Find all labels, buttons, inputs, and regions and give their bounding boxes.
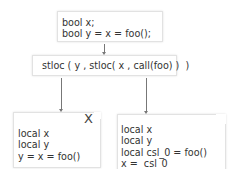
source-line: bool x; bbox=[62, 17, 162, 28]
code-line: local y bbox=[18, 139, 100, 150]
code-line: local x bbox=[121, 124, 225, 135]
arrow-il-to-correct bbox=[146, 78, 147, 112]
incorrect-decompile-box: X local x local y y = x = foo() bbox=[13, 112, 101, 168]
code-line: local csl_0 = foo() bbox=[121, 147, 225, 158]
code-line: local x bbox=[18, 128, 100, 139]
arrow-source-to-il bbox=[104, 44, 105, 53]
il-expression-box: stloc ( y , stloc( x , call(foo) ) ) bbox=[32, 55, 177, 76]
correct-decompile-box: local x local y local csl_0 = foo() x = … bbox=[117, 114, 226, 169]
code-line: y = x = foo() bbox=[18, 151, 100, 162]
source-line: bool y = x = foo(); bbox=[62, 28, 162, 39]
arrow-il-to-wrong bbox=[61, 78, 62, 110]
code-line: local y bbox=[121, 135, 225, 146]
il-expression: stloc ( y , stloc( x , call(foo) ) ) bbox=[42, 60, 176, 71]
source-code-box: bool x; bool y = x = foo(); bbox=[57, 11, 163, 42]
code-line: x = csl_0 bbox=[121, 158, 225, 169]
folded-corner bbox=[216, 114, 226, 124]
folded-corner bbox=[94, 112, 101, 119]
cross-icon: X bbox=[84, 113, 93, 124]
